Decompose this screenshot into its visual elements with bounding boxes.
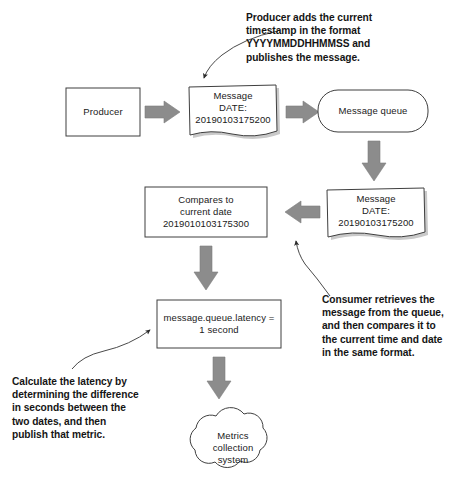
- node-producer: [66, 88, 140, 136]
- consumer-note-line-3: and then compares it to: [322, 319, 454, 332]
- latency-note-line-1: Calculate the latency by: [12, 375, 158, 388]
- node-message-published: [189, 85, 280, 139]
- producer-note-line-2: timestamp in the format: [246, 24, 452, 37]
- consumer-note-line-2: message from the queue,: [322, 306, 454, 319]
- consumer-note-line-4: the current time and date: [322, 333, 454, 346]
- annotation-consumer-note: Consumer retrieves the message from the …: [322, 293, 454, 359]
- node-metrics-collection-system: [190, 408, 267, 468]
- pointer-latency-note: [72, 330, 150, 369]
- diagram-canvas: Producer Message DATE: 20190103175200 Me…: [0, 0, 454, 501]
- connector-latency-to-metrics: [207, 357, 231, 399]
- producer-note-line-4: publishes the message.: [246, 51, 452, 64]
- annotation-latency-note: Calculate the latency by determining the…: [12, 375, 158, 441]
- connector-message-to-queue: [286, 101, 319, 123]
- latency-note-line-2: determining the difference: [12, 388, 158, 401]
- node-compares-current-date: [145, 187, 267, 237]
- node-message-consumed: [327, 188, 428, 240]
- latency-note-line-4: two dates, and then: [12, 415, 158, 428]
- producer-note-line-1: Producer adds the current: [246, 11, 452, 24]
- latency-note-line-5: publish that metric.: [12, 428, 158, 441]
- connector-compares-to-latency: [194, 246, 218, 290]
- node-latency-metric: [157, 300, 281, 348]
- node-message-queue: [318, 90, 428, 132]
- connector-queue-to-consumed-message: [362, 141, 386, 181]
- consumer-note-line-5: in the same format.: [322, 346, 454, 359]
- annotation-producer-note: Producer adds the current timestamp in t…: [246, 11, 452, 64]
- consumer-note-line-1: Consumer retrieves the: [322, 293, 454, 306]
- connector-consumed-message-to-compares: [285, 201, 320, 223]
- latency-note-line-3: in seconds between the: [12, 401, 158, 414]
- producer-note-line-3: YYYYMMDDHHMMSS and: [246, 37, 452, 50]
- pointer-consumer-note: [296, 241, 330, 296]
- connector-producer-to-message: [145, 101, 180, 123]
